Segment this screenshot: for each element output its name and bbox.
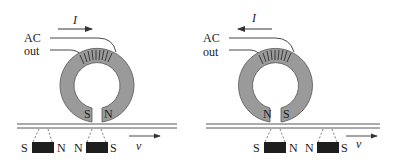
velocity-label: v xyxy=(136,139,142,153)
current-label: I xyxy=(72,13,78,27)
diagram: I AC out S N xyxy=(0,0,395,162)
gap-pole-left: S xyxy=(84,107,91,121)
magnet-1 xyxy=(32,142,54,153)
gap-pole-left: N xyxy=(263,107,272,121)
panel-left: I AC out S N xyxy=(17,13,177,155)
magnet-2-left-pole: N xyxy=(305,141,314,155)
magnet-2 xyxy=(317,142,339,153)
out-label: out xyxy=(24,44,40,58)
iron-core xyxy=(239,48,313,122)
gap-pole-right: N xyxy=(104,107,113,121)
field-lines-magnet-1 xyxy=(265,129,285,142)
panel-right: I AC out N S xyxy=(203,11,380,155)
gap-pole-right: S xyxy=(283,107,290,121)
magnet-1-left-pole: S xyxy=(253,141,260,155)
velocity-label: v xyxy=(356,137,362,151)
magnet-1-right-pole: N xyxy=(57,141,66,155)
field-lines-magnet-2 xyxy=(318,129,337,142)
field-lines-magnet-2 xyxy=(87,129,106,142)
magnet-1 xyxy=(264,142,286,153)
magnet-2-right-pole: S xyxy=(341,141,348,155)
magnet-2-right-pole: S xyxy=(110,141,117,155)
ac-label: AC xyxy=(24,31,41,45)
magnet-1-left-pole: S xyxy=(21,141,28,155)
magnet-2 xyxy=(86,142,108,153)
magnet-2-left-pole: N xyxy=(74,141,83,155)
iron-core xyxy=(60,48,134,122)
current-label: I xyxy=(251,11,257,25)
ac-label: AC xyxy=(203,31,220,45)
magnet-1-right-pole: N xyxy=(289,141,298,155)
out-label: out xyxy=(203,45,219,59)
field-lines-magnet-1 xyxy=(33,129,52,142)
